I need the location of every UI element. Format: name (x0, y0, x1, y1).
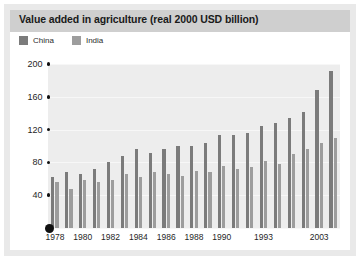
bar-india-1990 (222, 166, 225, 228)
gridline (48, 64, 340, 65)
y-tick-dot-icon (47, 95, 51, 99)
bar-china-1995 (288, 118, 291, 228)
bar-india-1989 (208, 172, 211, 228)
y-tick: 160 (21, 92, 51, 102)
bar-india-1978 (55, 182, 58, 228)
bar-china-1996 (302, 112, 305, 228)
bar-china-1983 (121, 156, 124, 228)
x-axis: 197819801982198419861988199019932003 (48, 232, 340, 248)
y-tick-dot-icon (47, 161, 51, 165)
bar-china-1978 (51, 177, 54, 228)
bar-india-1996 (306, 149, 309, 228)
y-tick: 80 (21, 157, 51, 167)
chart-legend: China India (19, 36, 103, 45)
bar-china-1979 (65, 172, 68, 228)
legend-swatch-india-icon (72, 36, 81, 45)
gridline (48, 228, 340, 229)
legend-label-china: China (33, 36, 54, 45)
bar-china-1992 (246, 133, 249, 228)
x-tick-label: 1984 (129, 232, 148, 242)
x-tick-label: 2003 (310, 232, 329, 242)
bar-china-2004 (329, 71, 332, 228)
chart-figure: Value added in agriculture (real 2000 US… (0, 0, 360, 260)
legend-item-china: China (19, 36, 54, 45)
bar-india-1981 (97, 182, 100, 228)
bar-china-2003 (315, 90, 318, 228)
bar-india-1982 (111, 180, 114, 228)
bar-china-1991 (232, 135, 235, 228)
bar-india-1993 (264, 161, 267, 228)
bar-india-1995 (292, 154, 295, 228)
y-tick-dot-icon (47, 62, 51, 66)
bar-china-1980 (79, 174, 82, 228)
bar-india-2004 (334, 138, 337, 228)
bar-india-1980 (83, 180, 86, 228)
gridline (48, 97, 340, 98)
y-tick-label: 200 (21, 59, 43, 69)
bar-india-2003 (320, 143, 323, 228)
bar-china-1987 (176, 146, 179, 228)
bar-india-1986 (167, 174, 170, 228)
y-tick-label: 160 (21, 92, 43, 102)
legend-item-india: India (72, 36, 103, 45)
bar-india-1994 (278, 164, 281, 228)
bar-india-1988 (195, 171, 198, 228)
legend-swatch-china-icon (19, 36, 28, 45)
y-tick-label: 120 (21, 125, 43, 135)
y-tick: 200 (21, 59, 51, 69)
x-tick-label: 1978 (45, 232, 64, 242)
x-tick-label: 1990 (212, 232, 231, 242)
y-tick-dot-icon (47, 128, 51, 132)
legend-label-india: India (86, 36, 103, 45)
gridline (48, 162, 340, 163)
y-axis: 04080120160200 (8, 58, 50, 234)
bar-china-1993 (260, 126, 263, 228)
bar-china-1994 (274, 123, 277, 228)
bar-india-1985 (153, 172, 156, 228)
gridline (48, 130, 340, 131)
plot-area (48, 64, 340, 228)
x-tick-label: 1993 (254, 232, 273, 242)
bar-china-1981 (93, 169, 96, 228)
bar-india-1984 (139, 177, 142, 228)
y-tick-dot-icon (47, 193, 51, 197)
bar-india-1983 (125, 174, 128, 228)
y-tick-label: 80 (21, 157, 43, 167)
x-tick-label: 1986 (157, 232, 176, 242)
y-tick: 40 (21, 190, 51, 200)
bar-china-1984 (135, 149, 138, 228)
y-tick-label: 40 (21, 190, 43, 200)
bar-china-1985 (149, 153, 152, 228)
bar-china-1988 (190, 146, 193, 228)
bar-china-1989 (204, 143, 207, 228)
chart-title: Value added in agriculture (real 2000 US… (19, 13, 258, 25)
x-tick-label: 1980 (73, 232, 92, 242)
bar-china-1982 (107, 162, 110, 228)
y-tick: 120 (21, 125, 51, 135)
bar-india-1992 (250, 167, 253, 228)
x-tick-label: 1988 (185, 232, 204, 242)
bar-india-1979 (69, 189, 72, 228)
bar-india-1987 (181, 176, 184, 228)
bar-india-1991 (236, 169, 239, 228)
bar-china-1990 (218, 135, 221, 228)
bar-china-1986 (162, 149, 165, 228)
x-tick-label: 1982 (101, 232, 120, 242)
